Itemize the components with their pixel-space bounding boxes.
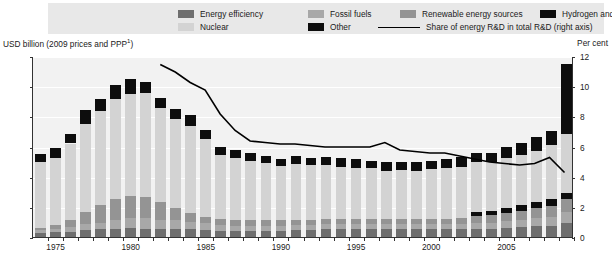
bar-column[interactable] [261, 56, 272, 237]
bar-column[interactable] [426, 56, 437, 237]
bar-segment [561, 212, 572, 223]
bar-segment [456, 229, 467, 237]
x-axis-tick-label: 1985 [197, 242, 215, 252]
bar-column[interactable] [396, 56, 407, 237]
x-axis-tickmark [183, 237, 184, 241]
y-axis-tickmark-left [30, 117, 33, 118]
bar-segment [80, 110, 91, 124]
bar-segment [65, 134, 76, 144]
bar-segment [456, 224, 467, 229]
bar-column[interactable] [351, 56, 362, 237]
bar-column[interactable] [245, 56, 256, 237]
y-axis-tickmark-left [30, 87, 33, 88]
x-axis-tickmark [529, 237, 530, 241]
bar-segment [336, 158, 347, 167]
bar-segment [381, 162, 392, 172]
bar-column[interactable] [381, 56, 392, 237]
bar-segment [200, 223, 211, 230]
bar-segment [531, 226, 542, 237]
bar-segment [486, 229, 497, 237]
bar-column[interactable] [185, 56, 196, 237]
bar-column[interactable] [110, 56, 121, 237]
bar-column[interactable] [65, 56, 76, 237]
x-axis-tick-label: 2000 [422, 242, 440, 252]
bar-segment [351, 229, 362, 237]
bar-segment [411, 162, 422, 171]
bar-segment [185, 222, 196, 230]
bar-segment [215, 231, 226, 237]
bar-column[interactable] [441, 56, 452, 237]
bar-column[interactable] [200, 56, 211, 237]
bar-column[interactable] [561, 56, 572, 237]
bar-column[interactable] [155, 56, 166, 237]
bar-segment [396, 162, 407, 170]
bar-segment [291, 156, 302, 164]
bar-segment [396, 224, 407, 229]
bar-column[interactable] [321, 56, 332, 237]
bar-segment [306, 165, 317, 219]
bar-column[interactable] [230, 56, 241, 237]
bar-segment [486, 223, 497, 229]
bar-column[interactable] [35, 56, 46, 237]
bar-column[interactable] [366, 56, 377, 237]
x-axis-tickmark [108, 237, 109, 241]
bar-segment [35, 162, 46, 228]
x-axis-tickmark [334, 237, 335, 241]
x-axis-tickmark [138, 237, 139, 241]
bar-column[interactable] [456, 56, 467, 237]
bar-segment [411, 171, 422, 219]
x-axis-tickmark [78, 237, 79, 241]
bar-segment [306, 225, 317, 230]
bar-segment [351, 224, 362, 229]
bar-column[interactable] [306, 56, 317, 237]
bar-column[interactable] [516, 56, 527, 237]
bar-segment [170, 208, 181, 220]
x-axis-tickmark [304, 237, 305, 241]
bar-segment [95, 205, 106, 222]
bar-column[interactable] [486, 56, 497, 237]
bar-segment [546, 131, 557, 145]
bar-column[interactable] [215, 56, 226, 237]
bar-segment [140, 218, 151, 229]
bar-segment [80, 124, 91, 212]
bar-segment [95, 111, 106, 205]
x-axis-tickmark [123, 237, 124, 241]
bar-column[interactable] [501, 56, 512, 237]
bar-column[interactable] [471, 56, 482, 237]
bar-column[interactable] [125, 56, 136, 237]
bar-segment [561, 193, 572, 199]
bar-segment [531, 208, 542, 218]
bar-column[interactable] [276, 56, 287, 237]
bar-column[interactable] [531, 56, 542, 237]
x-axis-tickmark [319, 237, 320, 241]
y-axis-tick-label-right: 6 [580, 143, 610, 153]
bar-column[interactable] [411, 56, 422, 237]
bar-segment [501, 221, 512, 228]
bar-segment [396, 170, 407, 219]
bar-segment [351, 219, 362, 224]
bar-segment [351, 159, 362, 167]
bar-segment [291, 164, 302, 220]
bar-segment [230, 231, 241, 237]
x-axis-tickmark [424, 237, 425, 241]
bar-segment [261, 231, 272, 237]
bar-segment [366, 219, 377, 224]
bar-column[interactable] [50, 56, 61, 237]
bar-segment [125, 218, 136, 228]
bar-column[interactable] [80, 56, 91, 237]
bar-column[interactable] [170, 56, 181, 237]
bar-column[interactable] [336, 56, 347, 237]
x-axis-tickmark [243, 237, 244, 241]
bar-segment [411, 224, 422, 229]
bar-column[interactable] [140, 56, 151, 237]
bar-segment [546, 226, 557, 237]
bar-segment [95, 99, 106, 111]
y-axis-tickmark-right [572, 87, 575, 88]
bar-column[interactable] [291, 56, 302, 237]
bar-segment [516, 205, 527, 211]
bar-column[interactable] [546, 56, 557, 237]
bar-segment [471, 216, 482, 223]
bar-column[interactable] [95, 56, 106, 237]
plot-area: 0481216202402468101219751980198519901995… [32, 57, 573, 238]
bar-segment [531, 137, 542, 151]
